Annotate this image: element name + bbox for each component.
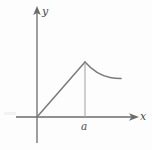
- rising-linear-segment: [37, 62, 85, 117]
- y-axis-label: y: [42, 6, 48, 17]
- function-graph-figure: y x a: [0, 0, 152, 150]
- graph-canvas: [0, 0, 152, 150]
- decaying-curve-segment: [85, 62, 121, 79]
- x-axis-label: x: [140, 111, 146, 122]
- x-tick-label-a: a: [81, 121, 87, 132]
